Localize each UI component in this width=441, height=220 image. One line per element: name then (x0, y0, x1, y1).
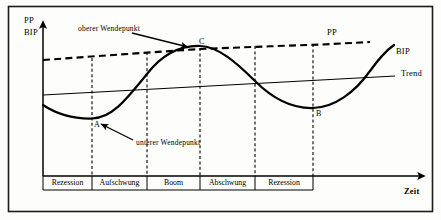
phase-label-boom: Boom (164, 178, 183, 187)
phase-cell-rezession-1: Rezession (43, 176, 92, 188)
phase-label-rezession-1: Rezession (52, 178, 84, 187)
phase-label-aufschwung: Aufschwung (100, 178, 140, 187)
annotation-oberer-wendepunkt: oberer Wendepunkt (78, 25, 140, 33)
y-axis-label-pp: PP (24, 16, 34, 25)
curve-label-trend: Trend (401, 69, 422, 78)
phase-label-abschwung: Abschwung (209, 178, 246, 187)
curve-label-pp: PP (327, 28, 337, 37)
annotation-unterer-wendepunkt: unterer Wendepunkt (136, 139, 200, 147)
point-label-c: C (199, 38, 205, 46)
y-axis-label-bip: BIP (24, 28, 38, 37)
business-cycle-figure: PP BIP Zeit oberer Wendepunkt unterer We… (0, 0, 441, 220)
phase-dividers (92, 44, 313, 176)
curve-label-bip: BIP (396, 47, 410, 56)
pp-line (43, 42, 370, 60)
trend-line (43, 76, 395, 95)
x-axis-label-zeit: Zeit (404, 187, 419, 196)
unterer-wendepunkt-arrow (101, 124, 133, 140)
point-label-b: B (316, 110, 322, 118)
phase-cell-abschwung: Abschwung (200, 176, 255, 188)
phase-cell-boom: Boom (147, 176, 200, 188)
phase-label-rezession-2: Rezession (268, 178, 300, 187)
phase-cell-aufschwung: Aufschwung (92, 176, 147, 188)
oberer-wendepunkt-arrow (132, 33, 188, 47)
bip-curve (43, 45, 394, 119)
phase-cell-rezession-2: Rezession (255, 176, 313, 188)
point-label-a: A (94, 121, 100, 129)
